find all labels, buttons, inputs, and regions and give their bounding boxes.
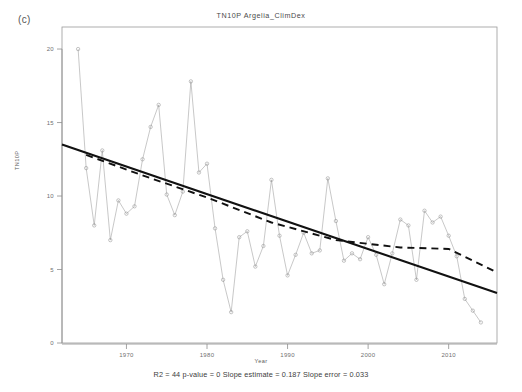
y-tick-label: 5 [50,267,54,273]
stats-caption: R2 = 44 p-value = 0 Slope estimate = 0.1… [0,370,522,379]
solid-trend-line [62,145,497,293]
x-axis: 19701980199020002010 [62,344,497,358]
chart-title: TN10P Argelia_ClimDex [0,11,522,20]
y-axis: 05101520 [47,46,62,346]
dashed-trend-line [86,155,497,273]
y-tick-label: 15 [47,120,55,126]
plot-area: 05101520 19701980199020002010 [0,0,522,392]
y-tick-label: 10 [47,193,55,199]
y-tick-label: 20 [47,46,55,52]
plot-border [62,27,497,343]
y-tick-label: 0 [50,340,54,346]
plot-frame [62,27,497,343]
trend-lines-group [62,145,497,293]
y-axis-title: TN10P [14,151,20,170]
x-axis-title: Year [0,358,522,364]
series-polyline [78,49,481,322]
data-series-group [76,47,482,324]
figure-container: (c) TN10P Argelia_ClimDex TN10P Year R2 … [0,0,522,392]
